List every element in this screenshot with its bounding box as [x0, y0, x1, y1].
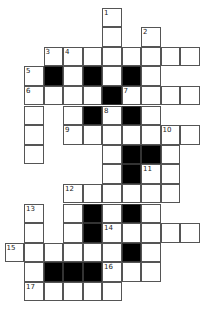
clue-number: 1	[104, 9, 108, 17]
clue-number: 11	[143, 165, 152, 173]
letter-cell[interactable]	[141, 125, 161, 145]
black-square	[122, 66, 142, 86]
clue-number: 8	[104, 107, 108, 115]
letter-cell[interactable]	[141, 262, 161, 282]
clue-number: 5	[26, 67, 30, 75]
letter-cell[interactable]	[24, 125, 44, 145]
letter-cell[interactable]	[63, 243, 83, 263]
letter-cell[interactable]	[141, 66, 161, 86]
letter-cell[interactable]	[63, 106, 83, 126]
letter-cell[interactable]	[161, 47, 181, 67]
black-square	[122, 145, 142, 165]
letter-cell[interactable]	[63, 204, 83, 224]
letter-cell[interactable]	[24, 106, 44, 126]
clue-number: 15	[7, 244, 16, 252]
clue-number: 17	[26, 283, 35, 291]
clue-cell-4[interactable]: 4	[63, 47, 83, 67]
clue-cell-1[interactable]: 1	[102, 8, 122, 28]
letter-cell[interactable]	[141, 184, 161, 204]
letter-cell[interactable]	[44, 86, 64, 106]
letter-cell[interactable]	[102, 47, 122, 67]
clue-cell-13[interactable]: 13	[24, 204, 44, 224]
letter-cell[interactable]	[63, 86, 83, 106]
clue-cell-3[interactable]: 3	[44, 47, 64, 67]
clue-cell-15[interactable]: 15	[5, 243, 25, 263]
letter-cell[interactable]	[102, 145, 122, 165]
letter-cell[interactable]	[83, 243, 103, 263]
letter-cell[interactable]	[102, 184, 122, 204]
letter-cell[interactable]	[141, 223, 161, 243]
black-square	[122, 164, 142, 184]
letter-cell[interactable]	[83, 125, 103, 145]
black-square	[122, 106, 142, 126]
black-square	[83, 106, 103, 126]
letter-cell[interactable]	[102, 243, 122, 263]
clue-number: 13	[26, 205, 35, 213]
clue-cell-2[interactable]: 2	[141, 27, 161, 47]
letter-cell[interactable]	[180, 86, 200, 106]
letter-cell[interactable]	[141, 204, 161, 224]
letter-cell[interactable]	[161, 164, 181, 184]
letter-cell[interactable]	[141, 47, 161, 67]
clue-cell-10[interactable]: 10	[161, 125, 181, 145]
letter-cell[interactable]	[44, 243, 64, 263]
crossword-grid: 1234567891011121314151617	[5, 8, 200, 301]
letter-cell[interactable]	[44, 282, 64, 302]
black-square	[83, 223, 103, 243]
letter-cell[interactable]	[24, 145, 44, 165]
letter-cell[interactable]	[122, 262, 142, 282]
letter-cell[interactable]	[63, 282, 83, 302]
clue-cell-8[interactable]: 8	[102, 106, 122, 126]
letter-cell[interactable]	[102, 125, 122, 145]
letter-cell[interactable]	[24, 262, 44, 282]
letter-cell[interactable]	[63, 223, 83, 243]
letter-cell[interactable]	[180, 223, 200, 243]
letter-cell[interactable]	[161, 86, 181, 106]
black-square	[122, 204, 142, 224]
clue-number: 7	[124, 87, 128, 95]
black-square	[83, 262, 103, 282]
clue-cell-17[interactable]: 17	[24, 282, 44, 302]
letter-cell[interactable]	[102, 66, 122, 86]
clue-cell-7[interactable]: 7	[122, 86, 142, 106]
clue-number: 12	[65, 185, 74, 193]
letter-cell[interactable]	[83, 184, 103, 204]
black-square	[83, 204, 103, 224]
letter-cell[interactable]	[24, 243, 44, 263]
letter-cell[interactable]	[141, 106, 161, 126]
black-square	[122, 243, 142, 263]
letter-cell[interactable]	[122, 125, 142, 145]
letter-cell[interactable]	[102, 204, 122, 224]
clue-cell-14[interactable]: 14	[102, 223, 122, 243]
letter-cell[interactable]	[24, 223, 44, 243]
clue-cell-5[interactable]: 5	[24, 66, 44, 86]
letter-cell[interactable]	[161, 145, 181, 165]
letter-cell[interactable]	[63, 66, 83, 86]
letter-cell[interactable]	[122, 47, 142, 67]
black-square	[63, 262, 83, 282]
letter-cell[interactable]	[161, 223, 181, 243]
letter-cell[interactable]	[122, 223, 142, 243]
clue-cell-16[interactable]: 16	[102, 262, 122, 282]
clue-cell-12[interactable]: 12	[63, 184, 83, 204]
letter-cell[interactable]	[161, 184, 181, 204]
clue-cell-11[interactable]: 11	[141, 164, 161, 184]
letter-cell[interactable]	[83, 86, 103, 106]
letter-cell[interactable]	[180, 125, 200, 145]
letter-cell[interactable]	[102, 282, 122, 302]
clue-number: 14	[104, 224, 113, 232]
clue-number: 6	[26, 87, 30, 95]
black-square	[83, 66, 103, 86]
letter-cell[interactable]	[83, 282, 103, 302]
letter-cell[interactable]	[122, 184, 142, 204]
clue-cell-9[interactable]: 9	[63, 125, 83, 145]
black-square	[141, 145, 161, 165]
letter-cell[interactable]	[141, 243, 161, 263]
letter-cell[interactable]	[102, 27, 122, 47]
clue-number: 4	[65, 48, 69, 56]
letter-cell[interactable]	[180, 47, 200, 67]
letter-cell[interactable]	[102, 164, 122, 184]
clue-cell-6[interactable]: 6	[24, 86, 44, 106]
letter-cell[interactable]	[141, 86, 161, 106]
letter-cell[interactable]	[83, 47, 103, 67]
